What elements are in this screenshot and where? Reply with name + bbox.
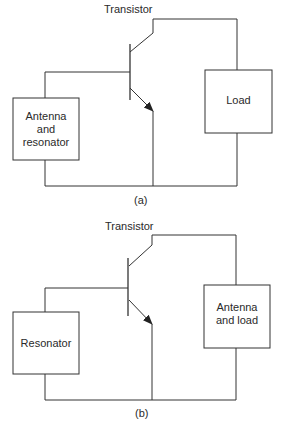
caption-a: (a) [134,194,147,207]
transistor-label-b: Transistor [105,220,154,233]
emitter-arrow-b [129,300,152,324]
transistor-label-a: Transistor [104,3,153,16]
box-text-line: and [23,123,69,136]
base-wire-a [45,72,130,98]
box-text-line: Load [226,94,250,107]
antenna-load-box-label: Antenna and load [204,285,270,348]
box-text-line: resonator [23,136,69,149]
antenna-resonator-box-label: Antenna and resonator [13,98,79,160]
box-text-line: Antenna [23,110,69,123]
caption-b: (b) [135,407,148,420]
box-text-line: Antenna [216,301,258,314]
box-text-line: and load [216,314,258,327]
base-wire-b [45,288,128,312]
resonator-box-label: Resonator [13,312,79,374]
collector-wire-a [130,19,237,70]
box-text-line: Resonator [21,337,72,350]
emitter-arrow-a [130,88,153,111]
collector-wire-b [129,235,236,285]
load-box-label: Load [205,70,272,133]
